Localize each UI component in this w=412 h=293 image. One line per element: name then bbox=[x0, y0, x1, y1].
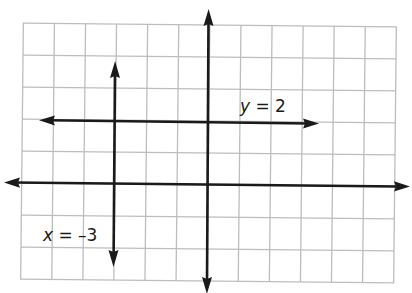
label-variable: y bbox=[240, 96, 250, 116]
arrow-up-icon bbox=[204, 9, 214, 26]
y-axis bbox=[202, 9, 214, 293]
arrow-down-icon bbox=[202, 277, 212, 293]
line-x-equals-neg3 bbox=[109, 61, 121, 267]
label-variable: x bbox=[43, 225, 53, 245]
coordinate-plane bbox=[0, 0, 412, 293]
arrow-left-icon bbox=[4, 178, 20, 188]
arrow-down-icon bbox=[109, 250, 119, 267]
label-x-equals-neg3: x = –3 bbox=[43, 227, 97, 244]
arrow-right-icon bbox=[303, 118, 319, 128]
label-y-equals-2: y = 2 bbox=[240, 98, 286, 115]
label-value: = –3 bbox=[53, 225, 97, 245]
label-value: = 2 bbox=[250, 96, 286, 116]
arrow-up-icon bbox=[110, 61, 120, 78]
line-y-equals-2 bbox=[39, 115, 319, 128]
arrow-right-icon bbox=[394, 181, 410, 191]
arrow-left-icon bbox=[39, 115, 55, 125]
